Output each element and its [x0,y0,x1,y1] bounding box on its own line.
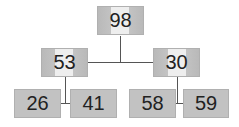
node-value: 41 [82,92,104,115]
edge-30-children-horizontal [176,103,183,104]
node-value: 59 [195,92,217,115]
tree-node-left: 53 [41,48,88,77]
node-value: 30 [165,51,187,74]
node-value: 53 [53,51,75,74]
edge-53-vertical [65,77,66,103]
tree-node-right-left: 58 [129,89,176,118]
tree-node-right-right: 59 [183,89,229,118]
tree-node-left-right: 41 [70,89,117,118]
node-value: 26 [26,92,48,115]
tree-node-root: 98 [97,6,144,35]
edge-level1-horizontal [88,62,153,63]
edge-53-children-horizontal [61,103,70,104]
node-value: 98 [109,9,131,32]
node-value: 58 [141,92,163,115]
tree-node-right: 30 [153,48,200,77]
edge-30-vertical [177,77,178,103]
tree-node-left-left: 26 [14,89,61,118]
edge-root-vertical [120,36,121,62]
